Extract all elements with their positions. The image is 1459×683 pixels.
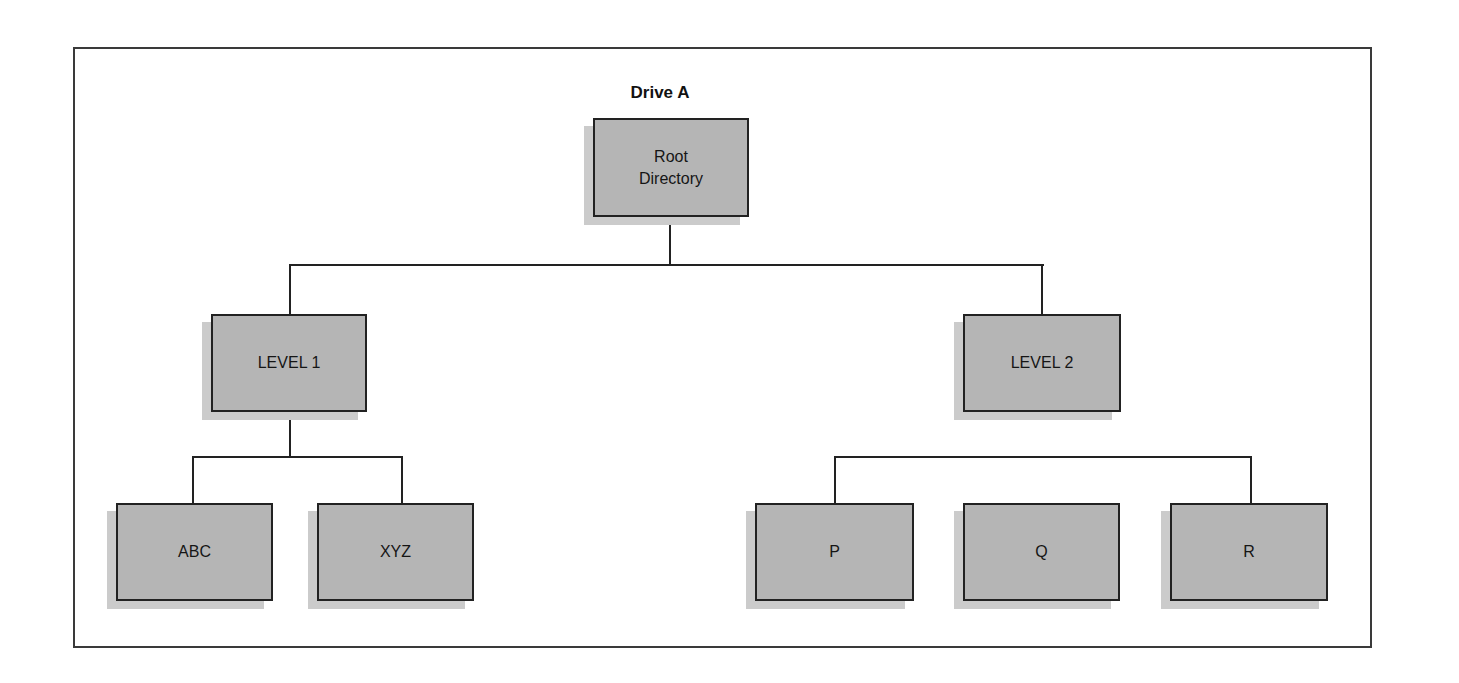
node-p: P — [755, 503, 914, 601]
connector-level1-down — [289, 411, 291, 458]
connector-to-p — [834, 456, 836, 505]
node-level-2: LEVEL 2 — [963, 314, 1121, 412]
node-root-line2: Directory — [639, 168, 703, 190]
node-level-1: LEVEL 1 — [211, 314, 367, 412]
node-r-label: R — [1243, 541, 1255, 563]
node-level-1-label: LEVEL 1 — [258, 352, 321, 374]
connector-to-level1 — [289, 264, 291, 316]
node-p-label: P — [829, 541, 840, 563]
connector-to-level2 — [1041, 264, 1043, 316]
node-q-label: Q — [1035, 541, 1047, 563]
node-q: Q — [963, 503, 1120, 601]
connector-root-down — [669, 216, 671, 266]
node-abc-label: ABC — [178, 541, 211, 563]
node-abc: ABC — [116, 503, 273, 601]
drive-title: Drive A — [600, 82, 720, 104]
connector-to-abc — [192, 456, 194, 505]
node-xyz: XYZ — [317, 503, 474, 601]
node-xyz-label: XYZ — [380, 541, 411, 563]
connector-level-bar — [289, 264, 1044, 266]
node-level-2-label: LEVEL 2 — [1011, 352, 1074, 374]
node-root-line1: Root — [639, 146, 703, 168]
node-r: R — [1170, 503, 1328, 601]
node-root-directory: Root Directory — [593, 118, 749, 217]
connector-to-xyz — [401, 456, 403, 505]
connector-pqr-bar — [834, 456, 1252, 458]
connector-level1-bar — [192, 456, 403, 458]
connector-to-r — [1250, 456, 1252, 505]
